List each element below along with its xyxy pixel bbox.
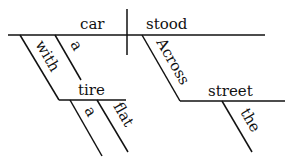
subject-word: car: [80, 15, 105, 33]
verb-word: stood: [146, 15, 188, 33]
sentence-diagram: car stood a with tire a flat Across stre…: [0, 0, 289, 163]
object-adjective-word: flat: [110, 99, 138, 130]
verb-prep-object-word: street: [208, 82, 253, 100]
verb-prep-article-word: the: [237, 105, 265, 135]
subject-article-word: a: [67, 37, 87, 54]
verb-preposition-word: Across: [152, 34, 194, 88]
object-article-word: a: [81, 103, 101, 120]
prep-object-tire-word: tire: [78, 81, 105, 99]
